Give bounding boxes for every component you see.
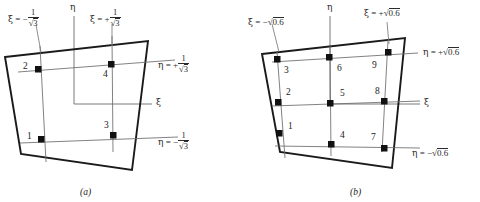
panel-b-point-2-marker [275,99,282,106]
panel-b-point-6-marker [326,54,333,61]
figure-canvas [0,0,480,202]
panel-b-point-4-label: 4 [340,131,345,141]
panel-a-point-2-marker [35,66,42,73]
panel-a-label-xi-pos: ξ = +1√3 [90,8,121,28]
panel-b-point-9-marker [385,49,392,56]
panel-b-point-8-marker [381,98,388,105]
panel-b-point-3-marker [274,56,281,63]
panel-b-point-7-marker [381,145,388,152]
panel-b-point-6-label: 6 [337,64,342,74]
panel-a-point-2-label: 2 [23,62,28,72]
panel-a-geometry [5,16,178,170]
panel-a-xi-pos-denominator: √3 [110,18,121,28]
panel-b-label-eta-neg: η = −√0.6 [412,148,448,158]
panel-a-label-xi-neg: ξ = −1√3 [8,8,39,28]
panel-b-eta-axis-label: η [327,3,332,12]
panel-b-xi-pos-radicand: 0.6 [389,8,400,18]
panel-a-point-3-marker [110,132,117,139]
panel-b-eta-pos-radicand: 0.6 [448,47,459,57]
panel-b-gridline-eta-pos [272,53,418,62]
panel-a-caption: (a) [80,188,91,198]
panel-a-leader-xi-neg [36,25,41,52]
panel-b-point-7-label: 7 [371,133,376,143]
panel-a-point-1-marker [38,136,45,143]
panel-a-point-4-label: 4 [103,70,108,80]
panel-a-eta-pos-numerator: 1 [178,54,189,64]
panel-b-point-9-label: 9 [372,61,377,71]
panel-b-xi-neg-radicand: 0.6 [273,17,284,27]
panel-b-point-5-marker [327,100,334,107]
panel-a-label-eta-pos: η = +1√3 [158,54,189,74]
panel-a-xi-pos-numerator: 1 [110,8,121,18]
panel-b-leader-xi-neg [272,24,279,52]
panel-b-point-1-label: 1 [288,122,293,132]
panel-b-point-8-label: 8 [375,87,380,97]
panel-b-xi-axis-label: ξ [424,98,429,107]
gauss-quadrature-figure: ξ = −1√3 ξ = +1√3 η = +1√3 η = −1√3 η ξ … [0,0,480,202]
panel-a-gridline-eta-pos [18,60,175,72]
panel-b-point-4-marker [328,141,335,148]
panel-a-point-1-label: 1 [27,132,32,142]
panel-a-label-eta-neg: η = −1√3 [158,131,189,151]
panel-b-label-xi-neg: ξ = −√0.6 [248,17,284,27]
panel-b-point-1-marker [276,130,283,137]
panel-a-eta-neg-denominator: √3 [178,141,189,151]
panel-b-gridline-xi-pos [382,40,388,152]
panel-b-point-5-label: 5 [340,89,345,99]
panel-a-xi-neg-numerator: 1 [28,8,39,18]
panel-b-label-eta-pos: η = +√0.6 [423,47,459,57]
panel-a-point-4-marker [108,61,115,68]
panel-b-point-3-label: 3 [284,66,289,76]
panel-b-eta-neg-radicand: 0.6 [437,148,448,158]
panel-b-point-2-label: 2 [286,88,291,98]
panel-b-caption: (b) [350,188,361,198]
panel-a-eta-axis-label: η [70,3,75,12]
panel-a-xi-neg-denominator: √3 [28,18,39,28]
panel-b-label-xi-pos: ξ = +√0.6 [364,8,400,18]
panel-b-gridline-eta-neg [275,146,420,148]
panel-a-eta-pos-denominator: √3 [178,64,189,74]
panel-a-xi-axis-label: ξ [156,98,161,107]
panel-a-point-3-label: 3 [104,121,109,131]
panel-a-gridline-xi-neg [40,46,46,162]
panel-a-eta-neg-numerator: 1 [178,131,189,141]
